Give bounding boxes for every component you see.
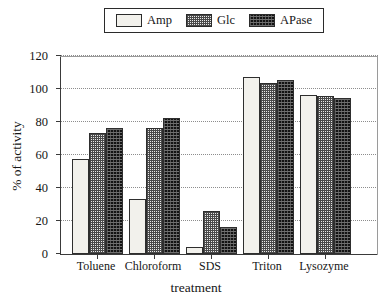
x-axis-tick-label: SDS [199, 260, 221, 272]
bar-glc-triton [260, 83, 277, 254]
bar-glc-toluene [89, 133, 106, 254]
bar-series-container [61, 56, 378, 254]
bar-apase-sds [220, 227, 237, 254]
plot-area: 020406080100120 [60, 56, 378, 255]
bar-amp-toluene [72, 159, 89, 254]
bar-glc-chloroform [146, 128, 163, 254]
y-axis-title: % of activity [8, 56, 26, 255]
bar-amp-chloroform [129, 199, 146, 254]
y-axis-tick-label: 20 [36, 215, 49, 228]
x-axis-tick-label: Chloroform [125, 260, 182, 272]
chart-legend: Amp Glc APase [104, 8, 324, 33]
y-axis-tick-label: 80 [36, 116, 49, 129]
bar-group [299, 56, 351, 254]
bar-chart-figure: Amp Glc APase % of activity 020406080100… [0, 0, 392, 306]
y-axis-tick-label: 120 [29, 50, 48, 63]
legend-label-apase: APase [280, 14, 312, 27]
legend-entry-amp: Amp [116, 14, 172, 27]
plot-right-border [377, 56, 378, 255]
legend-swatch-amp-icon [116, 14, 142, 27]
legend-swatch-glc-icon [186, 14, 212, 27]
bar-group [71, 56, 123, 254]
x-axis-title: treatment [0, 280, 392, 296]
bar-group [128, 56, 180, 254]
bar-amp-triton [243, 77, 260, 254]
legend-label-glc: Glc [217, 14, 235, 27]
bar-amp-lysozyme [300, 95, 317, 254]
legend-entry-apase: APase [249, 14, 312, 27]
y-axis-tick-label: 0 [42, 248, 48, 261]
x-axis-tick-label: Lysozyme [299, 260, 348, 272]
bar-apase-triton [277, 80, 294, 254]
y-axis-tick-label: 60 [36, 149, 49, 162]
bar-apase-lysozyme [334, 98, 351, 254]
bar-amp-sds [186, 247, 203, 254]
bar-group [242, 56, 294, 254]
bar-apase-chloroform [163, 118, 180, 254]
bar-apase-toluene [106, 128, 123, 254]
legend-entry-glc: Glc [186, 14, 235, 27]
bar-glc-sds [203, 211, 220, 254]
legend-swatch-apase-icon [249, 14, 275, 27]
plot-top-border [60, 56, 378, 57]
x-axis-tick-label: Triton [252, 260, 282, 272]
legend-label-amp: Amp [147, 14, 172, 27]
y-axis-tick-label: 40 [36, 182, 49, 195]
bar-glc-lysozyme [317, 96, 334, 254]
y-axis-title-text: % of activity [9, 121, 25, 191]
y-axis-tick-label: 100 [29, 83, 48, 96]
bar-group [185, 56, 237, 254]
x-axis-tick-label: Toluene [77, 260, 115, 272]
